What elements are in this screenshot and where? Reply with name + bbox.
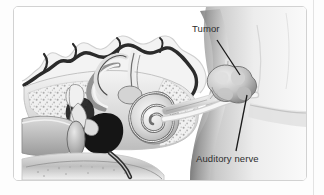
illustration-card: Tumor Auditory nerve bbox=[13, 6, 307, 181]
panel-edge-divider bbox=[313, 0, 314, 195]
screenshot-root: Tumor Auditory nerve bbox=[0, 0, 324, 195]
label-tumor: Tumor bbox=[192, 23, 220, 34]
label-auditory-nerve: Auditory nerve bbox=[196, 153, 259, 164]
ear-anatomy-illustration bbox=[14, 7, 306, 180]
tympanic-membrane bbox=[67, 121, 85, 157]
